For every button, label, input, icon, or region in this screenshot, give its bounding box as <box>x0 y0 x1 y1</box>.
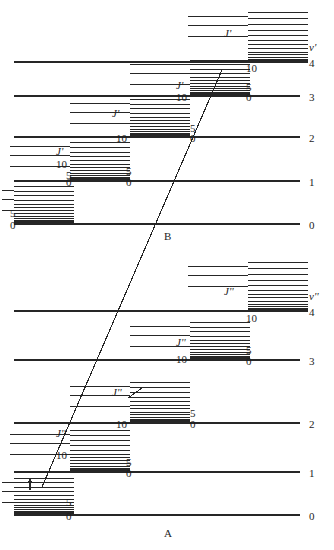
diagram-canvas <box>0 0 334 550</box>
label-lo-n0-5: 5 <box>66 497 72 508</box>
label-up-J4: J' <box>224 28 231 39</box>
label-up-n4-0: 0 <box>246 92 252 103</box>
label-lo-J3: J'' <box>176 337 186 348</box>
label-up-n0-0: 0 <box>10 220 16 231</box>
label-lo-n1-10: 10 <box>56 450 67 461</box>
label-up-n2-10: 10 <box>116 133 127 144</box>
label-up-n0-5: 5 <box>10 208 16 219</box>
label-up-n3-10: 10 <box>176 92 187 103</box>
label-up-v0: 0 <box>309 220 315 231</box>
rotational-ladder-B-1 <box>70 142 130 181</box>
label-lo-n3-10: 10 <box>176 354 187 365</box>
rotational-ladder-B-0 <box>14 186 74 224</box>
label-up-v3: 3 <box>309 92 315 103</box>
label-lo-v1: 1 <box>309 468 315 479</box>
label-lo-v-sym: v'' <box>309 291 319 302</box>
energy-level-diagram: v'43210J'J'J'J'105010501050105050Bv''432… <box>0 0 334 550</box>
label-lo-n3-0: 0 <box>246 356 252 367</box>
label-lo-v0: 0 <box>309 511 315 522</box>
label-lo-n0-0: 0 <box>66 511 72 522</box>
label-lo-n2-10: 10 <box>116 419 127 430</box>
label-lo-n2-0: 0 <box>190 419 196 430</box>
rotational-ladder-A-1 <box>70 430 130 472</box>
label-up-v2: 2 <box>309 133 315 144</box>
label-lo-J4: J'' <box>224 286 234 297</box>
rotational-ladder-A-2 <box>130 382 190 423</box>
label-up-v1: 1 <box>309 177 315 188</box>
label-up-v-sym: v' <box>309 42 316 53</box>
rotational-ladder-A-3 <box>190 322 250 360</box>
label-up-n2-0: 0 <box>126 177 132 188</box>
label-lo-n1-0: 0 <box>126 468 132 479</box>
label-sect-A: A <box>164 528 172 539</box>
rotational-ladder-B-4 <box>248 12 308 62</box>
rotational-ladder-B-2 <box>130 99 190 137</box>
label-lo-J2: J'' <box>112 387 122 398</box>
label-lo-J1: J'' <box>56 428 66 439</box>
label-lo-v4: 4 <box>309 307 315 318</box>
label-up-n3-0: 0 <box>190 133 196 144</box>
label-up-J1: J' <box>56 146 63 157</box>
rotational-ladder-A-4 <box>248 262 308 311</box>
label-up-n4-10: 10 <box>246 63 257 74</box>
rotational-ladder-B-3 <box>190 60 250 96</box>
label-sect-B: B <box>164 231 171 242</box>
label-up-n1-0: 0 <box>66 177 72 188</box>
label-lo-v3: 3 <box>309 356 315 367</box>
label-up-J2: J' <box>112 108 119 119</box>
label-lo-n4-10: 10 <box>246 313 257 324</box>
label-up-v4: 4 <box>309 58 315 69</box>
label-up-J3: J' <box>176 80 183 91</box>
label-lo-v2: 2 <box>309 419 315 430</box>
